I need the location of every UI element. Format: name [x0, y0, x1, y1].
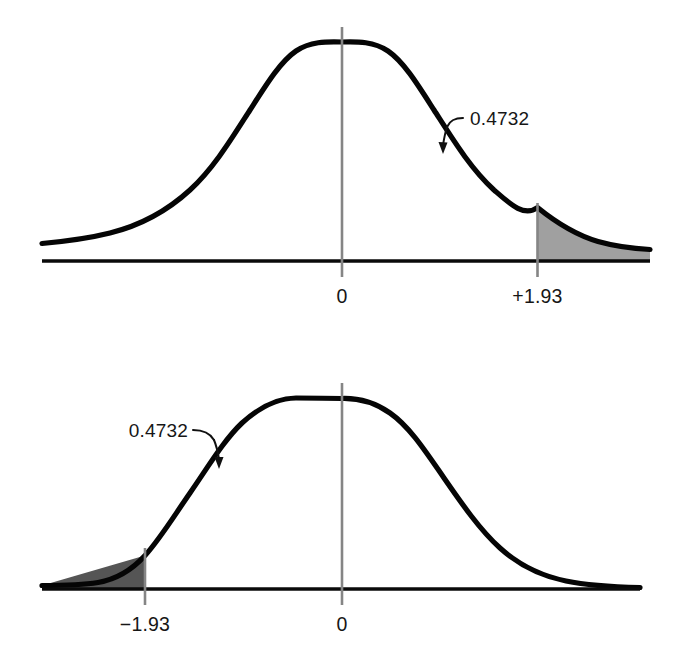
lower-chart-panel: 0.4732 −1.93 0	[0, 330, 676, 655]
normal-distribution-figure: 0.4732 0 +1.93 0.4732 −1.93	[0, 0, 676, 655]
lower-chart-svg: 0.4732 −1.93 0	[0, 330, 676, 655]
upper-chart-panel: 0.4732 0 +1.93	[0, 0, 676, 330]
upper-normal-curve	[42, 42, 650, 250]
upper-shaded-tail-region	[538, 208, 651, 262]
lower-center-tick-label: 0	[336, 613, 347, 635]
lower-callout-leader-line	[193, 430, 214, 440]
upper-callout-leader-line	[447, 118, 463, 127]
upper-area-callout-label: 0.4732	[470, 108, 529, 129]
lower-callout-arrow-head	[215, 457, 224, 469]
upper-center-tick-label: 0	[336, 285, 347, 307]
upper-callout-arrow-head	[439, 142, 448, 154]
lower-cut-tick-label: −1.93	[120, 613, 170, 635]
upper-chart-svg: 0.4732 0 +1.93	[0, 0, 676, 330]
lower-area-callout-label: 0.4732	[129, 420, 188, 441]
upper-cut-tick-label: +1.93	[512, 285, 562, 307]
